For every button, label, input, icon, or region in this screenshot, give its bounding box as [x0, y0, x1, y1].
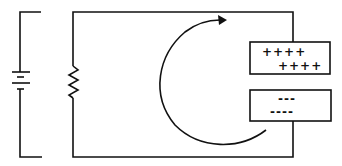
negative-charges-row-1: ---	[278, 92, 296, 106]
left-wire-bottom	[73, 98, 293, 157]
positive-charges-row-1: ++++	[262, 45, 306, 59]
left-wire-top	[73, 12, 293, 66]
circuit-diagram: ++++ ++++ --- ----	[0, 0, 342, 166]
current-arrow	[160, 15, 266, 144]
battery-top-lead	[20, 12, 41, 72]
positive-charges-row-2: ++++	[278, 59, 322, 73]
negative-charges-row-2: ----	[270, 105, 294, 119]
current-arrow-arc	[160, 20, 266, 144]
arrowhead-icon	[218, 15, 227, 25]
main-circuit: ++++ ++++ --- ----	[69, 12, 331, 157]
battery-branch	[12, 12, 42, 157]
resistor-symbol	[69, 66, 78, 98]
battery-bottom-lead	[20, 89, 42, 157]
